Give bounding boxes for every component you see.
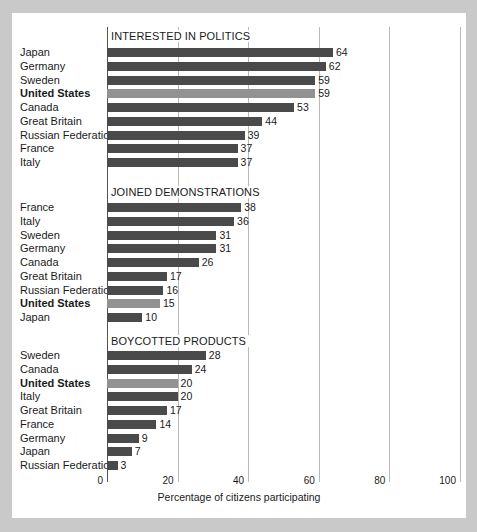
bar	[107, 286, 163, 295]
category-label: France	[20, 419, 106, 430]
bar-value-label: 53	[297, 102, 309, 113]
category-label: Great Britain	[20, 405, 106, 416]
category-label: United States	[20, 88, 106, 99]
gridline-100	[460, 27, 461, 482]
bar-value-label: 36	[237, 216, 249, 227]
bar	[107, 434, 139, 443]
bar-value-label: 62	[329, 61, 341, 72]
category-label: Russian Federation	[20, 130, 106, 141]
category-label: France	[20, 202, 106, 213]
bar	[107, 131, 245, 140]
x-tick-label-20: 20	[162, 475, 176, 486]
bar-value-label: 59	[318, 75, 330, 86]
bar-value-label: 26	[202, 257, 214, 268]
bar-value-label: 37	[241, 143, 253, 154]
bar	[107, 447, 132, 456]
category-label: Japan	[20, 47, 106, 58]
bar-value-label: 28	[209, 350, 221, 361]
x-axis-label: Percentage of citizens participating	[12, 491, 466, 503]
bar	[107, 76, 315, 85]
bar-value-label: 9	[142, 433, 148, 444]
bar	[107, 117, 262, 126]
bar-value-label: 59	[318, 88, 330, 99]
bar-value-label: 17	[170, 271, 182, 282]
category-label: Germany	[20, 61, 106, 72]
bar-value-label: 64	[336, 47, 348, 58]
x-tick-label-80: 80	[374, 475, 388, 486]
x-tick-label-100: 100	[439, 475, 459, 486]
category-label: Canada	[20, 257, 106, 268]
bar-value-label: 3	[121, 460, 127, 471]
bar	[107, 392, 178, 401]
bar	[107, 365, 192, 374]
bar-value-label: 14	[159, 419, 171, 430]
chart-panel: 020406080100INTERESTED IN POLITICSJapan6…	[12, 13, 466, 518]
bar	[107, 217, 234, 226]
bar-value-label: 37	[241, 157, 253, 168]
x-tick-label-60: 60	[304, 475, 318, 486]
bar-value-label: 16	[166, 285, 178, 296]
bar-value-label: 7	[135, 446, 141, 457]
category-label: Canada	[20, 102, 106, 113]
bar-value-label: 31	[219, 243, 231, 254]
bar	[107, 89, 315, 98]
bar	[107, 158, 238, 167]
bar	[107, 379, 178, 388]
section-title-1: INTERESTED IN POLITICS	[111, 30, 254, 42]
bar	[107, 351, 206, 360]
category-label: United States	[20, 298, 106, 309]
bar	[107, 48, 333, 57]
section-title-3: BOYCOTTED PRODUCTS	[111, 335, 250, 347]
bar	[107, 406, 167, 415]
category-label: Russian Federation	[20, 460, 106, 471]
bar-value-label: 15	[163, 298, 175, 309]
bar-value-label: 20	[181, 391, 193, 402]
category-label: Russian Federation	[20, 285, 106, 296]
category-label: Italy	[20, 157, 106, 168]
plot-area: 020406080100INTERESTED IN POLITICSJapan6…	[12, 13, 466, 518]
bar-value-label: 38	[244, 202, 256, 213]
category-label: Great Britain	[20, 271, 106, 282]
bar-value-label: 24	[195, 364, 207, 375]
category-label: Italy	[20, 216, 106, 227]
category-label: Japan	[20, 446, 106, 457]
category-label: Great Britain	[20, 116, 106, 127]
category-label: Germany	[20, 433, 106, 444]
bar	[107, 258, 199, 267]
bar	[107, 420, 156, 429]
bar-value-label: 31	[219, 230, 231, 241]
bar	[107, 203, 241, 212]
category-label: United States	[20, 378, 106, 389]
bar	[107, 313, 142, 322]
gridline-80	[389, 27, 390, 482]
bar-value-label: 39	[248, 130, 260, 141]
x-tick-label-40: 40	[233, 475, 247, 486]
bar	[107, 62, 326, 71]
category-label: Japan	[20, 312, 106, 323]
bar	[107, 244, 216, 253]
section-title-2: JOINED DEMONSTRATIONS	[111, 186, 264, 198]
category-label: Italy	[20, 391, 106, 402]
bar	[107, 299, 160, 308]
category-label: France	[20, 143, 106, 154]
category-label: Canada	[20, 364, 106, 375]
bar	[107, 231, 216, 240]
bar	[107, 461, 118, 470]
category-label: Sweden	[20, 350, 106, 361]
category-label: Sweden	[20, 230, 106, 241]
bar	[107, 272, 167, 281]
bar-value-label: 20	[181, 378, 193, 389]
category-label: Germany	[20, 243, 106, 254]
bar	[107, 103, 294, 112]
bar-value-label: 44	[265, 116, 277, 127]
bar	[107, 144, 238, 153]
bar-value-label: 10	[145, 312, 157, 323]
category-label: Sweden	[20, 75, 106, 86]
bar-value-label: 17	[170, 405, 182, 416]
x-tick-label-0: 0	[97, 475, 106, 486]
